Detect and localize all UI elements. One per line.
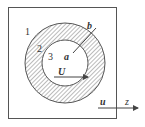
radius-a-label: a xyxy=(64,51,69,62)
region-2-label: 2 xyxy=(37,43,42,54)
velocity-u-label: u xyxy=(100,96,106,107)
region-1-label: 1 xyxy=(25,26,30,37)
region-3-label: 3 xyxy=(48,51,53,62)
velocity-U-label: U xyxy=(58,66,66,77)
diagram-canvas: 1 2 3 a b U u z xyxy=(0,0,145,127)
inner-circle xyxy=(42,40,88,86)
z-axis-label: z xyxy=(124,96,129,107)
radius-b-label: b xyxy=(87,20,92,31)
